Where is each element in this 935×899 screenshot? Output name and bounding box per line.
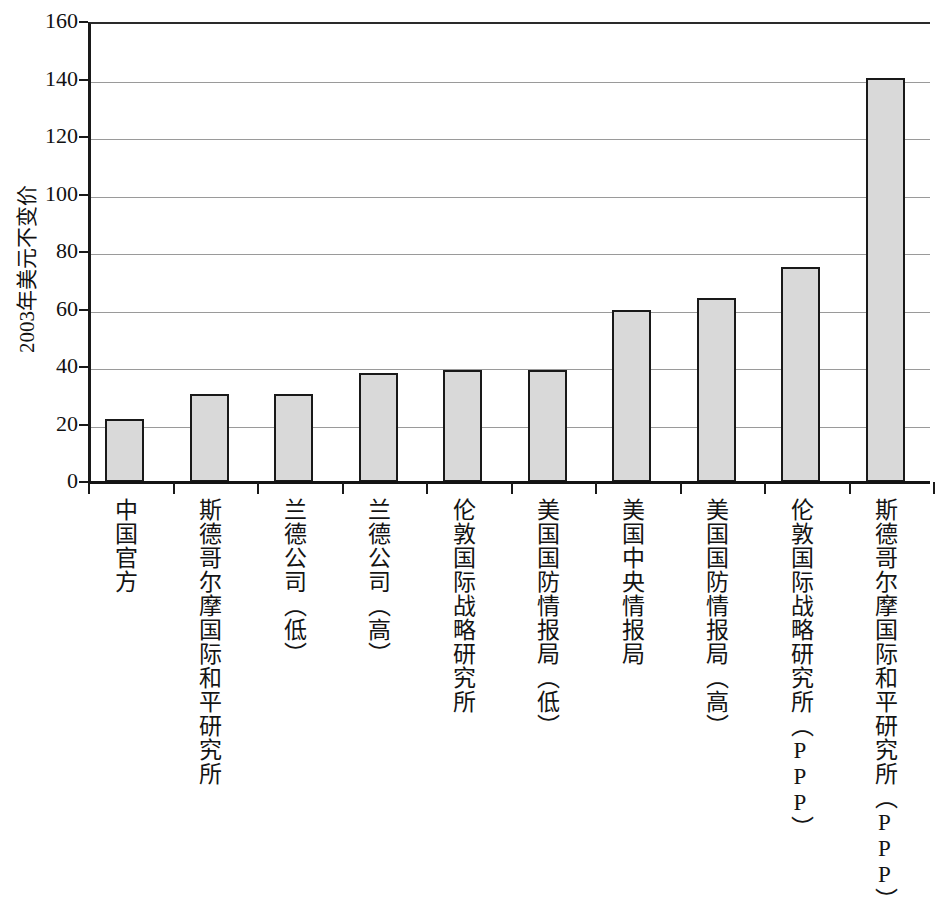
bar (866, 78, 905, 482)
x-tick-mark (342, 482, 344, 494)
x-category-label: 斯德哥尔摩国际和平研究所（PPP） (867, 498, 897, 899)
y-tick-label: 20 (32, 413, 78, 435)
x-axis-tick-marks (0, 482, 930, 496)
y-tick-label: 120 (32, 125, 78, 147)
bar (528, 370, 567, 482)
bar (274, 394, 313, 482)
bar (612, 310, 651, 483)
x-tick-mark (257, 482, 259, 494)
y-tick-label: 60 (32, 298, 78, 320)
y-tick-label: 140 (32, 68, 78, 90)
x-tick-mark (764, 482, 766, 494)
x-category-label: 美国国防情报局（低） (529, 498, 559, 738)
bar-series (91, 24, 930, 482)
y-tick-label: 40 (32, 355, 78, 377)
x-tick-mark (173, 482, 175, 494)
x-category-label: 伦敦国际战略研究所（PPP） (783, 498, 813, 840)
x-axis-category-labels: 中国官方斯德哥尔摩国际和平研究所兰德公司（低）兰德公司（高）伦敦国际战略研究所美… (0, 498, 930, 845)
y-tick-mark (79, 481, 88, 483)
x-category-label: 中国官方 (107, 498, 137, 594)
x-category-label: 斯德哥尔摩国际和平研究所 (191, 498, 221, 786)
x-tick-mark (849, 482, 851, 494)
bar (443, 370, 482, 482)
y-tick-mark (79, 366, 88, 368)
y-tick-mark (79, 251, 88, 253)
y-tick-mark (79, 79, 88, 81)
y-tick-mark (79, 309, 88, 311)
x-category-label: 伦敦国际战略研究所 (445, 498, 475, 714)
y-tick-mark (79, 424, 88, 426)
x-tick-mark (511, 482, 513, 494)
x-category-label: 美国中央情报局 (614, 498, 644, 666)
bar (190, 394, 229, 482)
x-category-label: 兰德公司（高） (360, 498, 390, 666)
y-axis-tick-labels: 160140120100806040200 (0, 0, 78, 500)
bar (105, 419, 144, 482)
y-tick-label: 80 (32, 240, 78, 262)
bar (781, 267, 820, 482)
y-tick-mark (79, 136, 88, 138)
x-tick-mark (88, 482, 90, 494)
bar (359, 373, 398, 482)
y-tick-mark (79, 194, 88, 196)
bar (697, 298, 736, 482)
x-tick-mark (426, 482, 428, 494)
plot-area (88, 22, 930, 482)
x-category-label: 美国国防情报局（高） (698, 498, 728, 738)
y-tick-label: 160 (32, 10, 78, 32)
x-category-label: 兰德公司（低） (276, 498, 306, 666)
y-tick-mark (79, 21, 88, 23)
y-tick-label: 100 (32, 183, 78, 205)
x-tick-mark (595, 482, 597, 494)
x-tick-mark (680, 482, 682, 494)
